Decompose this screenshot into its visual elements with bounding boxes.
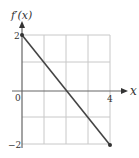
y-axis [19, 21, 25, 148]
y-tick-2: 2 [14, 31, 20, 41]
derivative-chart: f′(x) x 0 4 2 −2 [0, 0, 139, 158]
origin-label: 0 [15, 93, 21, 103]
x-axis-label: x [130, 84, 137, 98]
end-point [108, 143, 112, 147]
x-axis-arrow-icon [121, 88, 128, 94]
start-point [20, 33, 24, 37]
y-tick-neg2: −2 [8, 140, 21, 150]
x-tick-4: 4 [107, 94, 113, 104]
y-axis-label: f′(x) [10, 9, 32, 22]
y-axis-arrow-icon [19, 21, 25, 28]
